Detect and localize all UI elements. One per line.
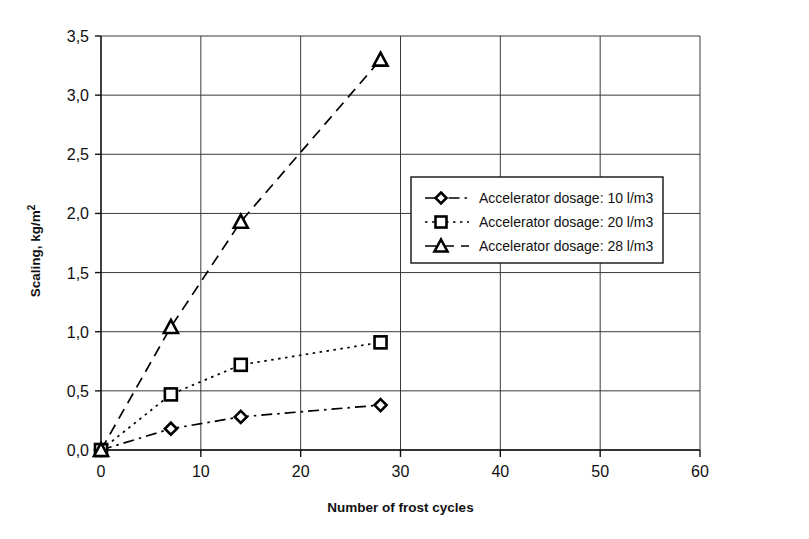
data-point-marker-diamond bbox=[375, 399, 387, 411]
series-line bbox=[101, 60, 381, 450]
scaling-vs-frost-cycles-chart: 0,00,51,01,52,02,53,03,50102030405060Num… bbox=[0, 0, 809, 539]
data-point-marker-square bbox=[235, 359, 247, 371]
series-3-triangle bbox=[94, 53, 388, 456]
x-axis-title: Number of frost cycles bbox=[327, 500, 473, 515]
data-point-marker-triangle bbox=[164, 320, 178, 333]
y-tick-label: 0,5 bbox=[67, 383, 89, 400]
legend: Accelerator dosage: 10 l/m3Accelerator d… bbox=[411, 177, 663, 263]
y-tick-label: 0,0 bbox=[67, 442, 89, 459]
data-point-marker-triangle bbox=[374, 53, 388, 66]
y-tick-label: 1,5 bbox=[67, 265, 89, 282]
y-tick-label: 3,0 bbox=[67, 87, 89, 104]
data-point-marker-diamond bbox=[235, 411, 247, 423]
x-tick-label: 50 bbox=[591, 463, 609, 480]
x-tick-label: 30 bbox=[392, 463, 410, 480]
x-tick-label: 0 bbox=[97, 463, 106, 480]
y-tick-label: 1,0 bbox=[67, 324, 89, 341]
legend-label: Accelerator dosage: 10 l/m3 bbox=[479, 190, 654, 206]
x-tick-label: 60 bbox=[691, 463, 709, 480]
series-1-diamond bbox=[95, 399, 387, 456]
x-tick-label: 20 bbox=[292, 463, 310, 480]
y-axis-title: Scaling, kg/m2 bbox=[26, 204, 44, 297]
data-point-marker-diamond bbox=[165, 423, 177, 435]
data-point-marker-square bbox=[436, 217, 447, 228]
data-point-marker-square bbox=[165, 388, 177, 400]
legend-label: Accelerator dosage: 20 l/m3 bbox=[479, 214, 654, 230]
x-tick-label: 10 bbox=[192, 463, 210, 480]
y-tick-label: 3,5 bbox=[67, 28, 89, 45]
data-point-marker-square bbox=[375, 336, 387, 348]
y-tick-label: 2,0 bbox=[67, 205, 89, 222]
y-tick-label: 2,5 bbox=[67, 146, 89, 163]
x-tick-label: 40 bbox=[491, 463, 509, 480]
legend-label: Accelerator dosage: 28 l/m3 bbox=[479, 238, 654, 254]
chart-figure: 0,00,51,01,52,02,53,03,50102030405060Num… bbox=[0, 0, 809, 539]
